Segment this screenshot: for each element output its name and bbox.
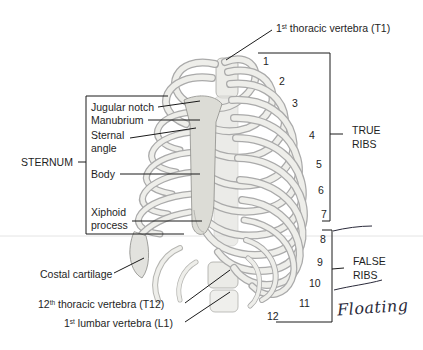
rib-number-4: 4 <box>309 129 315 141</box>
rib-number-6: 6 <box>318 184 324 196</box>
label-t12-vertebra: 12th thoracic vertebra (T12) <box>38 298 164 310</box>
rib-number-3: 3 <box>292 97 298 109</box>
rib-number-8: 8 <box>320 233 326 245</box>
rib-number-7: 7 <box>321 208 327 220</box>
label-xiphoid-line1: Xiphoid <box>91 206 126 218</box>
label-false-ribs-line2: RIBS <box>353 269 378 281</box>
rib-number-12: 12 <box>267 310 279 322</box>
label-true-ribs-line1: TRUE <box>352 124 381 136</box>
label-l1-vertebra: 1st lumbar vertebra (L1) <box>64 317 173 329</box>
label-t1-vertebra: 1st thoracic vertebra (T1) <box>276 22 390 34</box>
label-costal-cartilage: Costal cartilage <box>40 268 112 280</box>
label-xiphoid-line2: process <box>91 219 128 231</box>
rib-number-1: 1 <box>263 55 269 67</box>
rib-number-11: 11 <box>299 297 310 309</box>
label-sternal-angle-line1: Sternal <box>91 129 124 141</box>
rib-cage-diagram: 1st thoracic vertebra (T1) Jugular notch… <box>0 0 423 350</box>
label-jugular-notch: Jugular notch <box>91 101 154 113</box>
label-sternal-angle-line2: angle <box>91 142 117 154</box>
rib-number-10: 10 <box>309 277 321 289</box>
label-false-ribs-line1: FALSE <box>353 255 386 267</box>
label-manubrium: Manubrium <box>91 114 144 126</box>
label-sternum: STERNUM <box>21 156 73 168</box>
label-true-ribs-line2: RIBS <box>352 138 377 150</box>
rib-number-2: 2 <box>279 75 285 87</box>
rib-number-5: 5 <box>316 158 322 170</box>
rib-number-9: 9 <box>317 256 323 268</box>
label-sternum-body: Body <box>91 168 115 180</box>
